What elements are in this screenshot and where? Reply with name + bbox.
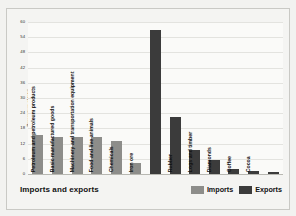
legend-label-exports: Exports: [255, 185, 282, 194]
legend-swatch-exports: [239, 186, 252, 194]
bar-slot: Iron ore: [130, 22, 141, 174]
bar-slot: Logs and timber: [189, 22, 200, 174]
plot-area: 60544842363024181260 Petroleum and petro…: [28, 22, 283, 174]
bar-category-label: Logs and timber: [187, 132, 192, 172]
y-tick-label: 0: [23, 172, 25, 176]
gridline: [28, 174, 283, 175]
bar-slot: Chemicals: [111, 22, 122, 174]
bar-category-label: Basic manufactured goods: [50, 105, 55, 172]
bar-category-label: Iron ore: [128, 153, 133, 172]
bar-category-label: Machinery and transportation equipment: [70, 71, 75, 172]
bar-slot: Diamonds: [209, 22, 220, 174]
y-tick-label: 42: [20, 65, 25, 69]
y-tick-label: 18: [20, 126, 25, 130]
bar-slot: Basic manufactured goods: [52, 22, 63, 174]
y-tick-label: 54: [20, 35, 25, 39]
legend-entry-imports: Imports: [191, 185, 233, 194]
legend-entry-exports: Exports: [239, 185, 282, 194]
y-tick-label: 30: [20, 96, 25, 100]
chart-footer: Imports and exports Imports Exports: [14, 182, 282, 204]
y-tick-label: 24: [20, 111, 25, 115]
bar-slot: Food and live animals: [91, 22, 102, 174]
bar: [150, 30, 161, 174]
legend-swatch-imports: [191, 186, 204, 194]
chart-figure: Percentage of total 60544842363024181260…: [0, 0, 296, 216]
bar-category-label: Petroleum and petroleum products: [30, 86, 35, 172]
bar-category-label: Rubber: [168, 154, 173, 172]
bar-group: Petroleum and petroleum productsBasic ma…: [28, 22, 283, 174]
bar-category-label: Cocoa: [246, 156, 251, 172]
y-tick-label: 12: [20, 141, 25, 145]
bar-slot: [268, 22, 279, 174]
legend-label-imports: Imports: [207, 185, 233, 194]
bar-slot: Coffee: [228, 22, 239, 174]
chart-legend: Imports Exports: [191, 185, 282, 194]
y-tick-label: 48: [20, 50, 25, 54]
bar-category-label: Diamonds: [207, 147, 212, 172]
bar-category-label: Chemicals: [109, 146, 114, 172]
bar-slot: Rubber: [170, 22, 181, 174]
bar-slot: Petroleum and petroleum products: [32, 22, 43, 174]
y-tick-label: 36: [20, 81, 25, 85]
bar-category-label: Coffee: [227, 156, 232, 172]
y-tick-label: 60: [20, 20, 25, 24]
bar-slot: Cocoa: [248, 22, 259, 174]
bar: [268, 172, 279, 174]
bar-category-label: Food and live animals: [89, 118, 94, 172]
bar-slot: [150, 22, 161, 174]
y-tick-label: 6: [23, 157, 25, 161]
chart-title: Imports and exports: [20, 185, 99, 194]
bar-slot: Machinery and transportation equipment: [72, 22, 83, 174]
